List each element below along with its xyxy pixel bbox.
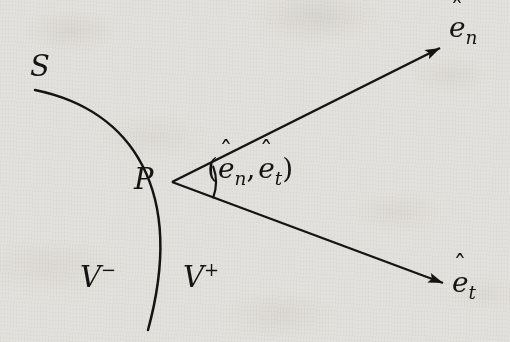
hat-accent-icon: ˆ [454,253,467,279]
angle-label: (ˆen, ˆet) [207,155,293,188]
e-hat-glyph-t: ˆe [258,155,275,183]
close-paren: ) [282,152,293,185]
open-paren: ( [207,152,218,185]
hat-accent-icon: ˆ [220,139,233,165]
comma-separator: , [246,152,255,185]
e-hat-glyph-n: ˆe [218,155,235,183]
subscript-n: n [466,27,478,48]
e-hat-glyph-n: ˆe [449,14,466,42]
surface-label-s: S [30,52,50,81]
normal-vector-label: ˆen [449,14,477,47]
plus-superscript: + [204,259,219,280]
surface-curve-S [35,90,160,330]
tangent-vector-label: ˆet [452,269,476,302]
region-label-v-minus: V− [80,261,116,292]
hat-accent-icon: ˆ [451,0,464,24]
subscript-n: n [235,168,247,189]
minus-superscript: − [101,259,116,280]
region-label-v-plus: V+ [183,261,219,292]
subscript-t: t [469,282,476,303]
hat-accent-icon: ˆ [260,139,273,165]
e-hat-glyph-t: ˆe [452,269,469,297]
subscript-t: t [275,168,282,189]
figure-canvas: S P V− V+ ˆen ˆet (ˆen, ˆet) [0,0,510,342]
point-label-p: P [134,165,154,194]
